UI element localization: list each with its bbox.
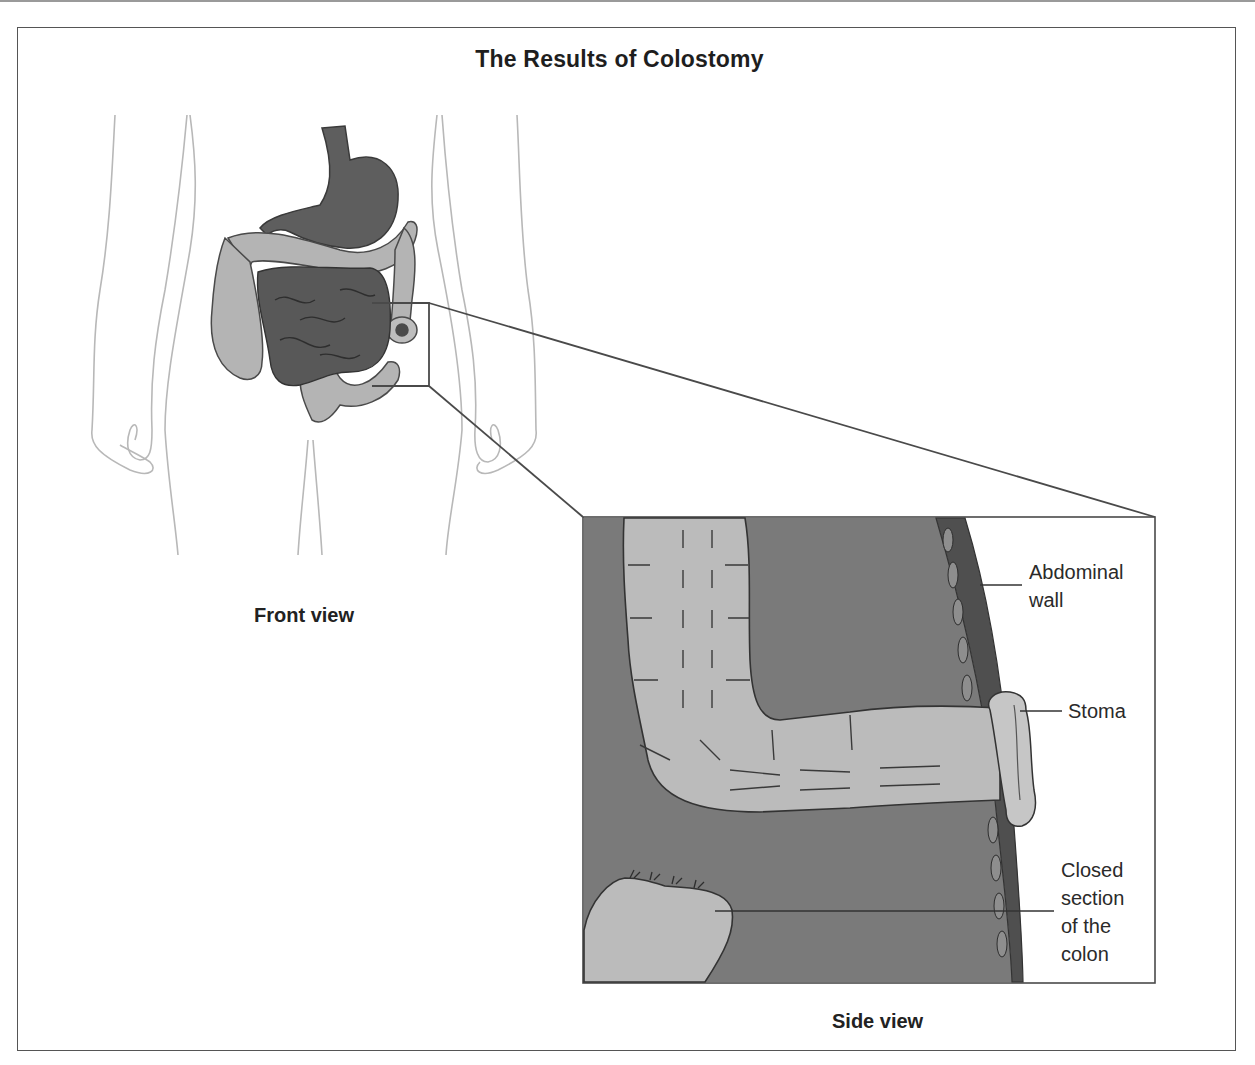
- label-abdominal-wall-line2: wall: [1029, 586, 1124, 614]
- label-abdominal-wall-line1: Abdominal: [1029, 558, 1124, 586]
- label-abdominal-wall: Abdominal wall: [1029, 558, 1124, 614]
- connector-line-top: [429, 303, 1155, 517]
- label-closed-section-line2: section: [1061, 884, 1124, 912]
- side-view-caption: Side view: [832, 1010, 923, 1033]
- small-intestine: [257, 267, 390, 386]
- label-closed-section-line4: colon: [1061, 940, 1124, 968]
- label-closed-section: Closed section of the colon: [1061, 856, 1124, 968]
- label-closed-section-line3: of the: [1061, 912, 1124, 940]
- connector-line-bottom: [429, 386, 583, 517]
- label-closed-section-line1: Closed: [1061, 856, 1124, 884]
- front-view-caption: Front view: [254, 604, 354, 627]
- esophagus-stomach: [260, 126, 398, 248]
- label-stoma: Stoma: [1068, 697, 1126, 725]
- closed-colon-shape: [584, 878, 733, 982]
- zoom-connectors: [372, 303, 1155, 517]
